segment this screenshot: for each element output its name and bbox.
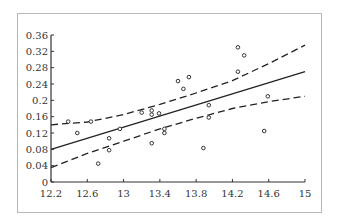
x-tick-label: 14.2 — [221, 188, 243, 199]
fit-lines — [51, 45, 305, 168]
upper-confidence-band-line — [51, 45, 305, 125]
data-point-marker — [76, 131, 80, 135]
data-point-marker — [182, 87, 186, 91]
x-tick-label: 14.6 — [258, 188, 280, 199]
data-point-marker — [150, 109, 154, 113]
x-axis-tick-labels: 12.212.61313.413.814.214.615 — [40, 188, 312, 199]
data-point-marker — [187, 75, 191, 79]
x-tick-label: 13 — [117, 188, 130, 199]
y-tick-label: 0.32 — [26, 46, 48, 57]
data-point-marker — [242, 54, 246, 58]
data-point-marker — [262, 129, 266, 133]
data-point-marker — [150, 141, 154, 145]
y-axis-tick-labels: 00.040.080.120.160.20.240.280.320.36 — [26, 30, 48, 188]
x-tick-label: 13.4 — [149, 188, 171, 199]
data-point-marker — [157, 112, 161, 116]
data-point-marker — [118, 127, 122, 131]
data-point-marker — [107, 137, 111, 141]
data-point-marker — [163, 127, 167, 131]
data-point-marker — [207, 116, 211, 120]
data-point-marker — [66, 120, 70, 124]
y-tick-label: 0.24 — [26, 79, 48, 90]
data-point-marker — [236, 70, 240, 74]
data-point-marker — [176, 79, 180, 83]
x-tick-label: 12.2 — [40, 188, 62, 199]
data-point-marker — [163, 131, 167, 135]
y-tick-label: 0.04 — [26, 160, 48, 171]
y-tick-label: 0.28 — [26, 62, 48, 73]
axes — [51, 35, 305, 182]
scatter-plot: 00.040.080.120.160.20.240.280.320.36 12.… — [0, 0, 340, 224]
data-points — [66, 46, 269, 166]
y-tick-label: 0.36 — [26, 30, 48, 41]
data-point-marker — [140, 111, 144, 115]
x-tick-label: 13.8 — [185, 188, 207, 199]
x-tick-label: 15 — [299, 188, 312, 199]
y-tick-label: 0.08 — [26, 144, 48, 155]
data-point-marker — [107, 148, 111, 152]
y-tick-label: 0 — [42, 177, 48, 188]
y-tick-label: 0.12 — [26, 128, 48, 139]
y-tick-label: 0.16 — [26, 111, 48, 122]
data-point-marker — [266, 95, 270, 99]
data-point-marker — [202, 146, 206, 150]
y-tick-label: 0.2 — [32, 95, 48, 106]
lower-confidence-band-line — [51, 96, 305, 167]
data-point-marker — [96, 162, 100, 166]
data-point-marker — [150, 113, 154, 117]
data-point-marker — [236, 46, 240, 50]
x-tick-label: 12.6 — [76, 188, 98, 199]
data-point-marker — [89, 120, 93, 124]
data-point-marker — [207, 103, 211, 107]
